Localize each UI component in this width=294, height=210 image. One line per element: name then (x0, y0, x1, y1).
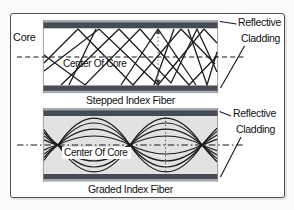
cladding-label-graded: Cladding (236, 124, 275, 135)
cladding-label-stepped: Cladding (241, 33, 280, 44)
reflective-cladding-bar-bottom (43, 86, 218, 92)
reflective-pointer-line (220, 22, 237, 25)
cladding-bar-highlight (43, 179, 218, 181)
stepped-fiber (17, 20, 245, 93)
stepped-fiber-caption: Stepped Index Fiber (43, 94, 218, 106)
cladding-bar-highlight (43, 108, 218, 111)
reflective-pointer-line (220, 112, 232, 117)
cladding-bar-highlight (43, 91, 218, 93)
center-of-core-label-stepped: Center Of Core (63, 59, 127, 69)
reflective-label-stepped: Reflective (238, 17, 281, 28)
graded-fiber (17, 108, 244, 182)
core-label: Core (13, 32, 36, 43)
reflective-cladding-bar-top (43, 110, 218, 116)
graded-fiber-caption: Graded Index Fiber (43, 183, 218, 195)
fiber-optics-diagram: Core Center Of Core Reflective Cladding … (0, 0, 294, 210)
center-of-core-label-graded: Center Of Core (62, 147, 131, 159)
cladding-pointer-line (221, 46, 245, 88)
cladding-pointer-line (221, 137, 242, 177)
reflective-cladding-bar-top (43, 22, 218, 28)
reflective-label-graded: Reflective (233, 108, 276, 119)
reflective-cladding-bar-bottom (43, 174, 218, 180)
cladding-bar-highlight (43, 20, 218, 23)
